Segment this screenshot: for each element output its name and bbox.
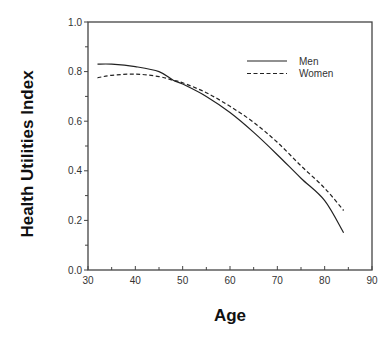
y-axis: 0.00.20.40.60.81.0 bbox=[68, 17, 88, 276]
y-tick-label: 0.0 bbox=[68, 265, 82, 276]
x-axis-title: Age bbox=[214, 306, 246, 325]
legend-label-men: Men bbox=[299, 56, 318, 67]
y-tick-label: 1.0 bbox=[68, 17, 82, 28]
y-axis-title: Health Utilities Index bbox=[18, 70, 37, 238]
x-axis: 30405060708090 bbox=[82, 266, 378, 286]
series-group bbox=[98, 64, 344, 233]
y-tick-label: 0.8 bbox=[68, 66, 82, 77]
y-tick-label: 0.2 bbox=[68, 215, 82, 226]
plot-frame bbox=[88, 22, 372, 270]
series-line-men bbox=[98, 64, 344, 233]
series-line-women bbox=[98, 74, 344, 210]
x-tick-label: 40 bbox=[130, 275, 142, 286]
x-tick-label: 70 bbox=[272, 275, 284, 286]
x-tick-label: 60 bbox=[224, 275, 236, 286]
legend: MenWomen bbox=[247, 56, 333, 80]
line-chart: 0.00.20.40.60.81.0 30405060708090 MenWom… bbox=[0, 0, 392, 338]
x-tick-label: 80 bbox=[319, 275, 331, 286]
legend-label-women: Women bbox=[299, 68, 333, 79]
x-tick-label: 50 bbox=[177, 275, 189, 286]
x-tick-label: 30 bbox=[82, 275, 94, 286]
y-tick-label: 0.4 bbox=[68, 165, 82, 176]
x-tick-label: 90 bbox=[366, 275, 378, 286]
y-tick-label: 0.6 bbox=[68, 116, 82, 127]
